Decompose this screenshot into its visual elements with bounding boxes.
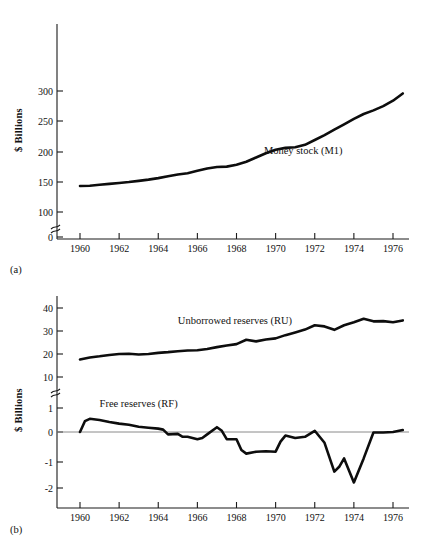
panel-a-y-tick-label-200: 200 [38,147,53,158]
panel-b-x-tick-label-1962: 1962 [109,512,129,523]
panel-b-x-tick-label-1968: 1968 [227,512,247,523]
panel-b-y-tick-label-30: 30 [43,326,53,337]
panel-b-x-tick-label-1964: 1964 [148,512,168,523]
panel-a-x-tick-label-1972: 1972 [305,243,325,254]
panel-b-x-tick-label-1972: 1972 [305,512,325,523]
panel-a-y-tick-label-300: 300 [38,86,53,97]
figure-canvas: 0100150200250300 19601962196419661968197… [0,0,434,555]
panel-a-x-tick-label-1974: 1974 [344,243,364,254]
panel-a-label: (a) [10,264,22,276]
panel-a-x-tick-label-1964: 1964 [148,243,168,254]
panel-a-y-axis-title: $ Billions [13,108,24,152]
panel-a-x-tick-label-1976: 1976 [383,243,403,254]
panel-b-x-tick-labels: 196019621964196619681970197219741976 [70,512,403,523]
panel-b-annotation-unborrowed-reserves: Unborrowed reserves (RU) [178,315,293,327]
panel-b-x-tick-label-1976: 1976 [383,512,403,523]
panel-b-x-tick-label-1960: 1960 [70,512,90,523]
panel-a-x-tick-label-1968: 1968 [227,243,247,254]
panel-b-x-tick-label-1974: 1974 [344,512,364,523]
panel-a-x-tick-label-1962: 1962 [109,243,129,254]
panel-b-x-tick-label-1970: 1970 [266,512,286,523]
panel-a-x-tick-labels: 196019621964196619681970197219741976 [70,243,403,254]
panel-b-y-tick-label-40: 40 [43,303,53,314]
panel-a-y-tick-label-0: 0 [48,232,53,243]
panel-b-y-axis-title: $ Billions [13,388,24,432]
panel-a-y-tick-label-150: 150 [38,177,53,188]
panel-a-y-tick-label-250: 250 [38,116,53,127]
figure-money-stock-and-reserves: 0100150200250300 19601962196419661968197… [0,0,434,555]
panel-a-x-tick-label-1960: 1960 [70,243,90,254]
panel-a-x-tick-label-1966: 1966 [187,243,207,254]
panel-b-x-tick-label-1966: 1966 [187,512,207,523]
panel-a-annotation-money-stock: Money stock (M1) [264,145,343,157]
panel-b-label: (b) [10,524,23,536]
panel-b-y-tick-label-1: 1 [48,403,53,414]
panel-a-y-tick-label-100: 100 [38,207,53,218]
panel-b-y-tick-label-0: 0 [48,427,53,438]
panel-b-y-tick-label--2: -2 [45,483,53,494]
panel-b-y-tick-label--1: -1 [45,457,53,468]
panel-b-y-tick-label-20: 20 [43,349,53,360]
panel-b-y-tick-label-10: 10 [43,372,53,383]
panel-b-annotation-free-reserves: Free reserves (RF) [100,398,179,410]
panel-a-series-annotations: Money stock (M1) [264,145,343,157]
figure-background [0,0,434,555]
panel-a-x-tick-label-1970: 1970 [266,243,286,254]
